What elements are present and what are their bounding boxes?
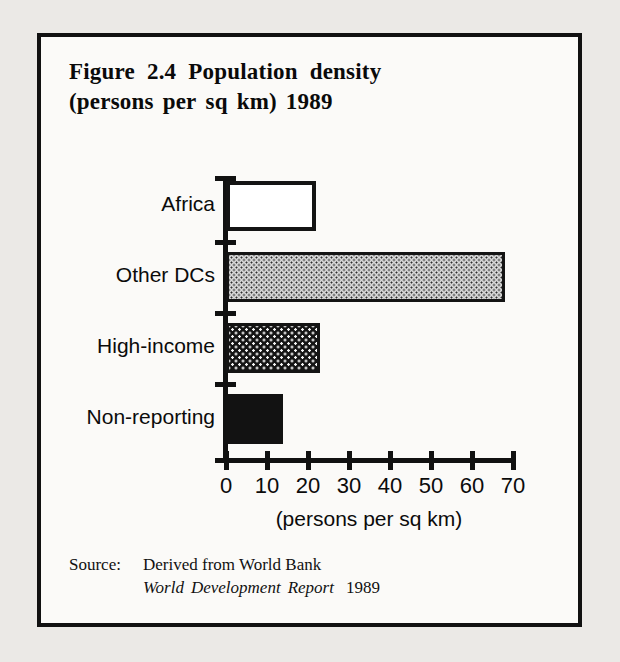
category-label-other-dcs: Other DCs: [45, 263, 215, 287]
figure-panel: Figure2.4Populationdensity (personspersq…: [37, 33, 582, 627]
x-axis-tick-40: [388, 451, 393, 470]
source-publication-word-0: World: [143, 578, 184, 597]
x-axis-tick-60: [470, 451, 475, 470]
source-label: Source:: [69, 553, 143, 576]
bar-africa: [226, 181, 316, 231]
x-axis-tick-label-60: 60: [452, 473, 492, 499]
bar-other-dcs: [226, 252, 505, 302]
y-axis-tick-3: [215, 382, 236, 387]
x-axis-tick-0: [224, 451, 229, 470]
x-axis-tick-70: [511, 451, 516, 470]
x-axis-tick-label-70: 70: [493, 473, 533, 499]
source-line-1: Source:Derived from World Bank: [69, 553, 380, 576]
source-line-2: WorldDevelopmentReport1989: [143, 576, 380, 599]
bar-high-income: [226, 323, 320, 373]
source-note: Source:Derived from World Bank WorldDeve…: [69, 553, 380, 599]
source-publication-word-2: Report: [288, 578, 334, 597]
source-year: 1989: [346, 578, 380, 597]
x-axis-tick-label-50: 50: [411, 473, 451, 499]
y-axis-tick-1: [215, 240, 236, 245]
x-axis-title: (persons per sq km): [223, 507, 515, 531]
x-axis-tick-10: [265, 451, 270, 470]
source-publication-word-1: Development: [191, 578, 281, 597]
x-axis-tick-30: [347, 451, 352, 470]
category-label-africa: Africa: [45, 192, 215, 216]
x-axis-tick-50: [429, 451, 434, 470]
bar-chart-plot: AfricaOther DCsHigh-incomeNon-reporting …: [41, 37, 578, 623]
source-text: Derived from World Bank: [143, 555, 321, 574]
x-axis-tick-label-40: 40: [370, 473, 410, 499]
y-axis-tick-2: [215, 311, 236, 316]
x-axis-tick-label-0: 0: [206, 473, 246, 499]
category-label-high-income: High-income: [45, 334, 215, 358]
category-label-non-reporting: Non-reporting: [45, 405, 215, 429]
x-axis-tick-label-30: 30: [329, 473, 369, 499]
x-axis-tick-20: [306, 451, 311, 470]
x-axis-tick-label-10: 10: [247, 473, 287, 499]
bar-non-reporting: [226, 394, 283, 444]
x-axis-tick-label-20: 20: [288, 473, 328, 499]
